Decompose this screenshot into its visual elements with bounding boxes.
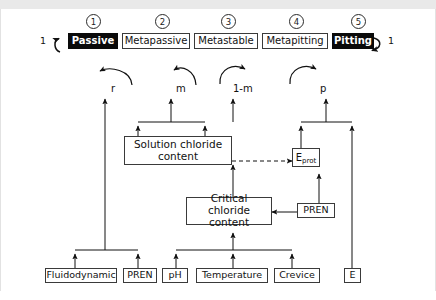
node-solution-chloride-content[interactable]: Solution chloride content [124,136,232,165]
left-probability-label: 1 [40,35,46,46]
factor-box-fluidodynamic[interactable]: Fluidodynamic [45,268,117,283]
eprot-symbol: Eprot [296,152,317,164]
state-box-metapassive[interactable]: Metapassive [122,33,190,49]
right-probability-label: 1 [388,35,394,46]
factor-box-potential[interactable]: E [344,268,361,283]
state-box-passive[interactable]: Passive [68,33,118,49]
node-critical-chloride-content[interactable]: Critical chloride content [186,197,272,225]
factor-box-pren[interactable]: PREN [123,268,157,283]
state-box-metapitting[interactable]: Metapitting [262,33,328,49]
factor-box-ph[interactable]: pH [162,268,188,283]
solution-chloride-line1: Solution chloride [134,139,222,151]
pitting-corrosion-diagram: 1 2 3 4 5 1 1 Passive Metapassive Metast… [0,0,436,300]
solution-chloride-line2: content [158,151,198,163]
transition-label-r: r [111,83,115,94]
state-box-pitting[interactable]: Pitting [332,33,374,49]
step-number-3: 3 [221,14,236,29]
critical-chloride-line2: content [209,217,249,229]
step-number-5: 5 [351,14,366,29]
critical-chloride-line1: Critical chloride [190,193,268,217]
factor-box-temperature[interactable]: Temperature [196,268,268,283]
step-number-4: 4 [289,14,304,29]
transition-label-m: m [176,83,186,94]
node-pren-mid[interactable]: PREN [297,203,335,218]
step-number-2: 2 [155,14,170,29]
factor-box-crevice[interactable]: Crevice [274,268,320,283]
transition-label-1-m: 1-m [233,83,253,94]
node-eprot[interactable]: Eprot [292,148,320,167]
state-box-metastable[interactable]: Metastable [194,33,258,49]
step-number-1: 1 [86,14,101,29]
transition-label-p: p [320,83,326,94]
